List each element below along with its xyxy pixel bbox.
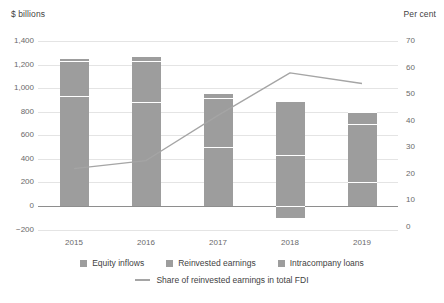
y-axis-tick-label: 400 [0,155,34,163]
bar-segment [60,61,89,96]
y2-axis-tick-label: 50 [406,90,440,98]
bar-segment [348,182,377,206]
legend-item[interactable]: Share of reinvested earnings in total FD… [135,275,308,285]
y2-axis-tick-label: 60 [406,64,440,72]
y2-axis-tick-label: 0 [406,223,440,231]
legend-swatch-icon [80,260,87,267]
legend-label: Reinvested earnings [178,258,256,268]
x-axis-tick-label: 2017 [188,238,248,247]
zero-axis-line [38,206,398,207]
legend-line-icon [135,279,150,281]
legend-item[interactable]: Reinvested earnings [166,258,256,268]
legend-item[interactable]: Equity inflows [80,258,144,268]
bar-segment [348,112,377,124]
legend-item[interactable]: Intracompany loans [278,258,364,268]
x-axis-tick-label: 2016 [116,238,176,247]
bar-segment [204,98,233,148]
legend-swatch-icon [278,260,285,267]
y-axis-tick-label: 1,000 [0,84,34,92]
bar-segment [60,58,89,61]
legend-label: Intracompany loans [290,258,364,268]
y-axis-tick-label: 1,400 [0,37,34,45]
bar-segment [276,155,305,206]
left-axis-title: $ billions [11,9,45,19]
y-axis-tick-label: 0 [0,202,34,210]
bar-segment [132,61,161,102]
legend-row-line: Share of reinvested earnings in total FD… [124,275,319,285]
y2-axis-tick-label: 40 [406,117,440,125]
x-axis-tick-label: 2015 [44,238,104,247]
y-axis-tick-label: 600 [0,131,34,139]
y2-axis-tick-label: 20 [406,170,440,178]
gridline [38,41,398,42]
x-axis-tick-label: 2019 [332,238,392,247]
chart-container: $ billions Per cent −20002004006008001,0… [0,0,444,303]
y-axis-tick-label: 800 [0,108,34,116]
legend-label: Share of reinvested earnings in total FD… [156,275,308,285]
y2-axis-tick-label: 70 [406,37,440,45]
y2-axis-tick-label: 30 [406,143,440,151]
x-axis-tick-label: 2018 [260,238,320,247]
bar-segment [276,101,305,155]
bar-segment [204,93,233,98]
bar-segment [276,206,305,218]
bar-segment [204,147,233,206]
bar-segment [60,96,89,206]
gridline [38,65,398,66]
gridline [38,88,398,89]
y-axis-tick-label: −200 [0,226,34,234]
legend-swatch-icon [166,260,173,267]
legend-label: Equity inflows [92,258,144,268]
chart-legend: Equity inflowsReinvested earningsIntraco… [0,258,444,285]
legend-row-bars: Equity inflowsReinvested earningsIntraco… [69,258,375,268]
gridline [38,230,398,231]
bar-segment [348,124,377,182]
right-axis-title: Per cent [404,9,436,19]
y2-axis-tick-label: 10 [406,196,440,204]
bar-segment [132,56,161,61]
bar-segment [132,102,161,206]
y-axis-tick-label: 1,200 [0,61,34,69]
y-axis-tick-label: 200 [0,178,34,186]
